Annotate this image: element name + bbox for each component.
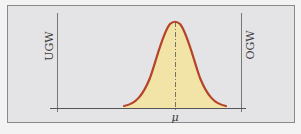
upper-limit-label: OGW	[244, 30, 257, 60]
normal-distribution-diagram: UGW OGW μ	[0, 0, 301, 134]
lower-limit-label: UGW	[43, 31, 56, 61]
mean-label: μ	[171, 111, 178, 124]
bell-curve-fill	[124, 22, 226, 108]
